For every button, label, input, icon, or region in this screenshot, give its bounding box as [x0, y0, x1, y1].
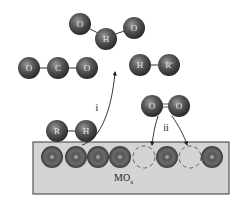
atom-label: C [55, 63, 61, 73]
atom-label: H [83, 126, 90, 136]
atom-label: R [54, 126, 60, 136]
surface-oxygen-atom [201, 146, 223, 168]
surface-oxygen-atom [41, 146, 63, 168]
atom-label: O [131, 23, 138, 33]
metal-oxide-surface: MOx [33, 142, 229, 194]
atom-label: O [149, 101, 156, 111]
surface-oxygen-atom [156, 146, 178, 168]
step-label: ii [163, 122, 169, 133]
atom-label: R' [165, 60, 173, 70]
surface-oxygen-atom [87, 146, 109, 168]
atom-label: O [84, 63, 91, 73]
atom-label: O [77, 19, 84, 29]
atom-label: O [26, 63, 33, 73]
surface-oxygen-atom [109, 146, 131, 168]
rh-molecule: R H [46, 120, 97, 142]
step-label: i [96, 102, 99, 113]
surface-oxygen-atom [65, 146, 87, 168]
atom-label: H [137, 60, 144, 70]
water-molecule: O H O [69, 13, 145, 50]
co2-molecule: O C O [18, 57, 98, 79]
step-ii-arrows: ii [152, 116, 187, 145]
atom-label: O [176, 101, 183, 111]
hr-prime-molecule: H R' [129, 54, 180, 76]
atom-label: H [103, 34, 110, 44]
o2-molecule: O O [141, 95, 190, 117]
oxidation-mechanism-diagram: MOx O H O O C O H R' R H [0, 0, 242, 209]
